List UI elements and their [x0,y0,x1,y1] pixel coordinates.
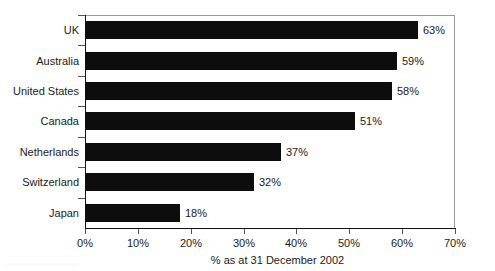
y-axis-tick [78,198,85,199]
category-label: Netherlands [0,147,79,158]
bar-value-label: 51% [360,116,382,127]
x-axis-tick [85,229,86,234]
bar [85,173,254,191]
x-axis-tick-label: 40% [285,238,307,249]
x-axis-tick [455,229,456,234]
x-axis-tick [296,229,297,234]
bar [85,82,392,100]
y-axis-tick [78,167,85,168]
bar [85,52,397,70]
x-axis-line [85,228,456,229]
x-axis-tick-label: 10% [127,238,149,249]
x-axis-tick-label: 50% [338,238,360,249]
x-axis-tick-label: 20% [180,238,202,249]
scan-artifact [6,263,78,266]
bar-value-label: 37% [286,147,308,158]
x-axis-title-text: % as at 31 December 2002 [211,255,344,266]
bar [85,112,355,130]
category-label: Switzerland [0,177,79,188]
category-label: UK [0,25,79,36]
bar [85,21,418,39]
bar-value-label: 58% [397,86,419,97]
bar-value-label: 18% [185,208,207,219]
bar-value-label: 59% [402,56,424,67]
category-label: United States [0,86,79,97]
bar-chart: UKAustraliaUnited StatesCanadaNetherland… [0,0,495,271]
x-axis-tick [138,229,139,234]
x-axis-tick [191,229,192,234]
y-axis-tick [78,45,85,46]
x-axis-tick-label: 70% [444,238,466,249]
category-label: Canada [0,116,79,127]
y-axis-tick [78,15,85,16]
x-axis-tick-label: 60% [391,238,413,249]
category-label: Australia [0,56,79,67]
bar-value-label: 32% [259,177,281,188]
x-axis-tick-label: 0% [77,238,93,249]
x-axis-tick [402,229,403,234]
y-axis-tick [78,106,85,107]
category-label: Japan [0,208,79,219]
x-axis-tick [349,229,350,234]
x-axis-tick [244,229,245,234]
bar [85,143,281,161]
bar [85,204,180,222]
y-axis-tick [78,137,85,138]
x-axis-tick-label: 30% [233,238,255,249]
y-axis-tick [78,76,85,77]
bar-value-label: 63% [423,25,445,36]
